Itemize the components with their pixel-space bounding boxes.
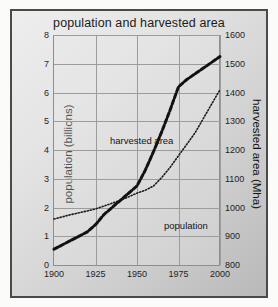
- y-tick-left: 6: [44, 88, 49, 98]
- x-tick: 2000: [210, 269, 230, 279]
- series-label-population: population: [164, 220, 208, 231]
- x-tick: 1900: [44, 269, 64, 279]
- y-tick-right: 1400: [225, 88, 245, 98]
- plot-area: 012345678 800900100011001200130014001500…: [53, 35, 220, 266]
- y-tick-right: 1200: [225, 145, 245, 155]
- y-tick-left: 7: [44, 59, 49, 69]
- y-tick-right: 1500: [225, 59, 245, 69]
- y-tick-left: 1: [44, 231, 49, 241]
- x-tick: 1975: [168, 269, 188, 279]
- y-axis-right-label: harvested area (Mha): [251, 99, 263, 209]
- y-tick-right: 1600: [225, 30, 245, 40]
- y-tick-right: 1300: [225, 116, 245, 126]
- y-tick-left: 4: [44, 145, 49, 155]
- y-tick-left: 8: [44, 30, 49, 40]
- series-line-population: [54, 90, 220, 219]
- x-tick: 1925: [85, 269, 105, 279]
- x-tick: 1950: [127, 269, 147, 279]
- y-tick-right: 1000: [225, 203, 245, 213]
- series-label-harvested-area: harvested area: [110, 135, 173, 146]
- y-tick-left: 3: [44, 174, 49, 184]
- gridline-vertical: [220, 35, 221, 265]
- y-tick-right: 1100: [225, 174, 244, 184]
- chart-figure: population and harvested area population…: [10, 9, 268, 298]
- chart-title: population and harvested area: [12, 16, 266, 30]
- y-tick-left: 2: [44, 203, 49, 213]
- y-tick-left: 5: [44, 116, 49, 126]
- y-tick-right: 900: [225, 231, 240, 241]
